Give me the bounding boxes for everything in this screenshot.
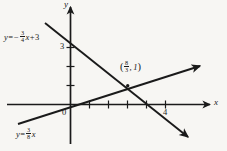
equation-x-var: x [32,130,36,139]
point-x-fraction-8-3: 8 3 [124,60,129,74]
fraction-denominator: 4 [20,36,25,43]
intersection-point-label: ( 8 3 , 1 ) [120,60,141,74]
slope-fraction-3-8: 3 8 [26,127,31,141]
equation-equals: = [20,130,26,139]
equation-label-ascending: y = 3 8 x [16,127,35,141]
intersection-dot [126,84,129,87]
x-tick-label-4: 4 [163,108,167,117]
equation-label-descending: y = − 3 4 x + 3 [4,30,39,44]
slope-fraction-3-4: 3 4 [20,30,25,44]
descending-line-plot [45,23,188,137]
coordinate-plane-figure: y = − 3 4 x + 3 y = 3 8 x ( 8 3 , 1 ) x … [0,0,227,151]
fraction-denominator: 8 [26,133,31,140]
equation-minus-sign: − [14,33,20,42]
y-tick-label-3: 3 [60,42,64,51]
equation-intercept: 3 [35,33,39,42]
open-paren: ( [120,62,124,73]
close-paren: ) [137,62,141,73]
y-axis-label: y [64,0,68,9]
x-axis-label: x [214,98,218,107]
fraction-denominator: 3 [124,66,129,73]
origin-label: 0 [62,108,66,117]
